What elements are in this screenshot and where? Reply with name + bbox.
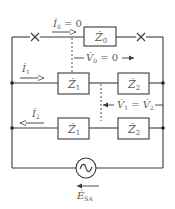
current-i2: İ2 bbox=[20, 108, 44, 123]
negative-sequence-branch: Ż1 Ż2 bbox=[10, 118, 165, 139]
current-i0: İ0 = 0 bbox=[52, 18, 82, 32]
open-switch-left-icon bbox=[31, 33, 39, 41]
svg-text:İ2: İ2 bbox=[31, 108, 40, 120]
voltage-v1-v2: V̇1 = V̇2 bbox=[103, 99, 163, 111]
svg-text:V̇0 = 0: V̇0 = 0 bbox=[86, 52, 118, 64]
voltage-v0: V̇0 = 0 bbox=[74, 52, 134, 64]
circuit-diagram: Ż0 Ż1 Ż2 Ż1 Ż2 İ0 = 0 V̇0 = 0 bbox=[0, 0, 175, 209]
positive-sequence-branch: Ż1 Ż2 bbox=[10, 73, 165, 94]
impedance-z0: Ż0 bbox=[84, 27, 116, 46]
current-i1: İ1 bbox=[20, 63, 44, 78]
svg-text:İ1: İ1 bbox=[21, 63, 30, 75]
ac-source-icon bbox=[76, 158, 96, 178]
open-switch-right-icon bbox=[137, 33, 145, 41]
junction-dot bbox=[161, 126, 165, 130]
svg-text:V̇1 = V̇2: V̇1 = V̇2 bbox=[117, 99, 154, 111]
svg-text:İ0 = 0: İ0 = 0 bbox=[52, 18, 82, 30]
junction-dot bbox=[161, 81, 165, 85]
junction-dot bbox=[10, 81, 14, 85]
junction-dot bbox=[10, 126, 14, 130]
source-emf-esa: ĖSA bbox=[76, 186, 99, 202]
svg-text:ĖSA: ĖSA bbox=[76, 190, 93, 202]
